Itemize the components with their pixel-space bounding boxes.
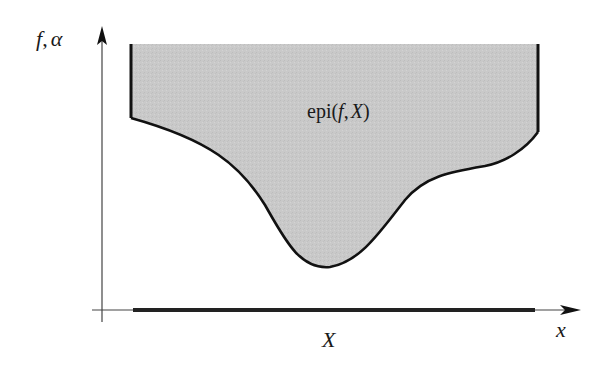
y-axis-label: f,α (36, 26, 63, 51)
x-axis-label: x (555, 317, 566, 342)
region-label: epi(f,X) (307, 100, 370, 123)
epigraph-diagram: f,α epi(f,X) X x (0, 0, 607, 377)
domain-label: X (321, 327, 337, 352)
epigraph-region (131, 44, 538, 267)
